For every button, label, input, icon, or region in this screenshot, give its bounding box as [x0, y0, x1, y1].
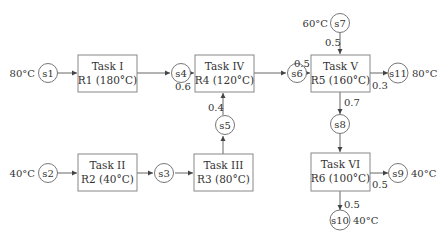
- fraction-task5-s11: 0.3: [372, 80, 388, 91]
- task-name: Task V: [323, 60, 359, 72]
- state-s10: s10 40°C: [330, 210, 379, 230]
- state-temperature: 40°C: [10, 168, 36, 179]
- task-unit: R1 (180°C): [78, 74, 137, 86]
- state-s7: s7 60°C: [303, 14, 350, 33]
- state-s5: s5: [216, 116, 235, 135]
- task-unit: R4 (120°C): [195, 74, 254, 86]
- svg-text:s10: s10: [331, 215, 349, 226]
- state-task-network-diagram: Task I R1 (180°C) Task II R2 (40°C) Task…: [0, 0, 448, 248]
- svg-text:s7: s7: [334, 18, 346, 29]
- svg-text:s5: s5: [219, 120, 231, 131]
- task-6: Task VI R6 (100°C): [311, 153, 370, 191]
- state-s8: s8: [331, 115, 350, 134]
- svg-text:s2: s2: [42, 168, 54, 179]
- svg-text:s9: s9: [392, 168, 404, 179]
- fraction-task6-s10: 0.5: [344, 199, 360, 210]
- task-unit: R6 (100°C): [311, 172, 370, 184]
- state-s2: s2 40°C: [10, 164, 58, 183]
- fraction-task5-s8: 0.7: [344, 97, 360, 108]
- task-unit: R5 (160°C): [311, 74, 370, 86]
- task-name: Task III: [204, 159, 244, 171]
- state-temperature: 40°C: [411, 168, 437, 179]
- fraction-s6-task5: 0.5: [294, 58, 310, 69]
- fraction-task6-s9: 0.5: [372, 179, 388, 190]
- svg-text:s1: s1: [42, 68, 54, 79]
- task-1: Task I R1 (180°C): [78, 55, 137, 92]
- svg-text:s4: s4: [175, 68, 187, 79]
- task-unit: R2 (40°C): [81, 173, 134, 185]
- state-s11: s11 80°C: [388, 63, 438, 83]
- task-unit: R3 (80°C): [197, 173, 250, 185]
- state-s3: s3: [155, 164, 174, 183]
- svg-text:s8: s8: [334, 119, 346, 130]
- fraction-s5-task4: 0.4: [208, 102, 224, 113]
- fraction-s7-task5: 0.5: [325, 37, 341, 48]
- task-name: Task II: [90, 159, 126, 171]
- task-5: Task V R5 (160°C): [311, 55, 370, 92]
- state-s9: s9 40°C: [389, 164, 437, 183]
- state-temperature: 80°C: [10, 68, 36, 79]
- svg-text:s11: s11: [389, 68, 407, 79]
- state-temperature: 60°C: [303, 18, 329, 29]
- state-temperature: 80°C: [412, 68, 438, 79]
- task-name: Task I: [92, 60, 124, 72]
- task-name: Task IV: [205, 60, 245, 72]
- task-4: Task IV R4 (120°C): [195, 55, 254, 92]
- task-name: Task VI: [321, 158, 360, 170]
- fraction-s4-task4: 0.6: [175, 81, 191, 92]
- state-s4: s4: [172, 64, 191, 83]
- task-2: Task II R2 (40°C): [78, 154, 137, 191]
- state-temperature: 40°C: [353, 215, 379, 226]
- svg-text:s6: s6: [291, 68, 303, 79]
- svg-text:s3: s3: [158, 168, 170, 179]
- state-s1: s1 80°C: [10, 64, 58, 83]
- task-3: Task III R3 (80°C): [194, 154, 253, 191]
